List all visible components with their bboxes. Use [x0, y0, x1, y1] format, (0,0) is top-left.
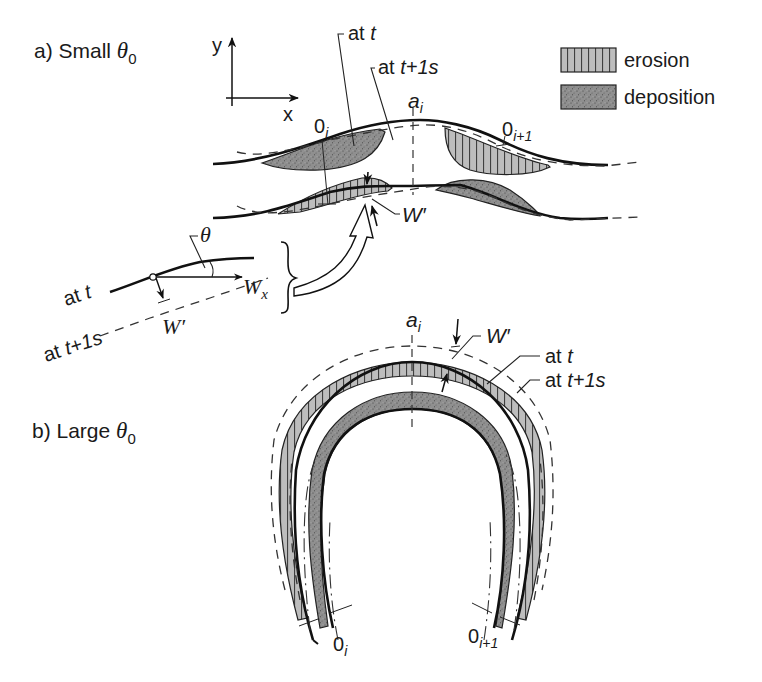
- label-0-i: 0i: [314, 115, 329, 141]
- meander-migration-diagram: a) Small θ0 y x erosion deposition: [0, 0, 762, 682]
- label-at-t: at t: [348, 22, 377, 44]
- label-b-at-t-plus-1s: at t+1s: [545, 369, 606, 391]
- curved-arrow-icon: [294, 205, 373, 296]
- panel-b-labels: ai W′ at t at t+1s 0i 0i+1: [333, 308, 606, 659]
- legend-erosion-label: erosion: [624, 49, 690, 71]
- svg-text:a) Small θ0: a) Small θ0: [34, 38, 137, 67]
- label-b-a-i: ai: [406, 308, 422, 335]
- inset-w-prime: W′: [162, 314, 186, 339]
- legend: erosion deposition: [561, 48, 715, 109]
- small-meander-channel: [213, 108, 640, 226]
- panel-a-label: a) Small θ0: [34, 38, 137, 67]
- panel-b-theta-sub: 0: [127, 430, 135, 447]
- svg-text:b) Large θ0: b) Large θ0: [32, 418, 136, 447]
- inset-theta: θ: [200, 222, 211, 247]
- label-b-w-prime: W′: [486, 324, 511, 347]
- inset-label-at-t: at t: [60, 280, 95, 310]
- brace-icon: [281, 242, 296, 313]
- panel-a-prefix: a) Small: [34, 39, 117, 62]
- panel-b-prefix: b) Large: [32, 419, 116, 442]
- inset-bank-detail: θ at t at t+1s W′ Wx: [40, 222, 296, 366]
- inset-label-at-t-plus-1s: at t+1s: [40, 326, 104, 366]
- x-axis-label: x: [283, 103, 293, 125]
- label-a-i: ai: [408, 89, 424, 116]
- legend-deposition-label: deposition: [624, 86, 715, 108]
- panel-a-theta: θ: [117, 38, 128, 63]
- label-b-0-i: 0i: [333, 633, 348, 659]
- legend-deposition-swatch: [561, 85, 616, 109]
- label-at-t-plus-1s: at t+1s: [378, 56, 439, 78]
- label-w-prime: W′: [402, 203, 427, 226]
- large-meander-channel: [271, 319, 553, 644]
- legend-erosion-swatch: [561, 48, 616, 72]
- panel-a-theta-sub: 0: [128, 50, 136, 67]
- axes-icon: y x: [212, 34, 298, 125]
- y-axis-label: y: [212, 34, 222, 56]
- panel-b-label: b) Large θ0: [32, 418, 136, 447]
- label-b-at-t: at t: [545, 345, 574, 367]
- inset-w-x: Wx: [243, 274, 268, 302]
- label-b-0-i-plus-1: 0i+1: [468, 625, 498, 651]
- label-0-i-plus-1: 0i+1: [502, 118, 532, 144]
- panel-b-theta: θ: [116, 418, 127, 443]
